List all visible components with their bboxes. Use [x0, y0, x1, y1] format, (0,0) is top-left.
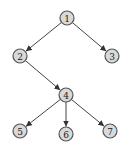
tree-node-7: 7 — [103, 124, 117, 138]
edge-4-5 — [26, 99, 61, 126]
tree-node-6: 6 — [59, 127, 73, 141]
tree-node-5: 5 — [13, 124, 27, 138]
tree-node-4: 4 — [59, 88, 73, 102]
edge-2-4 — [25, 61, 60, 91]
node-label: 4 — [63, 91, 69, 101]
edge-4-7 — [71, 99, 104, 126]
node-label: 3 — [109, 52, 115, 62]
tree-node-1: 1 — [60, 11, 74, 25]
node-label: 2 — [17, 52, 23, 62]
node-label: 1 — [64, 14, 70, 24]
tree-node-3: 3 — [105, 49, 119, 63]
node-label: 7 — [107, 127, 113, 137]
node-label: 6 — [63, 130, 69, 140]
tree-node-2: 2 — [13, 49, 27, 63]
tree-diagram: 1234567 — [0, 0, 129, 154]
edge-1-2 — [26, 22, 62, 51]
node-label: 5 — [17, 127, 23, 137]
edge-1-3 — [72, 23, 106, 52]
